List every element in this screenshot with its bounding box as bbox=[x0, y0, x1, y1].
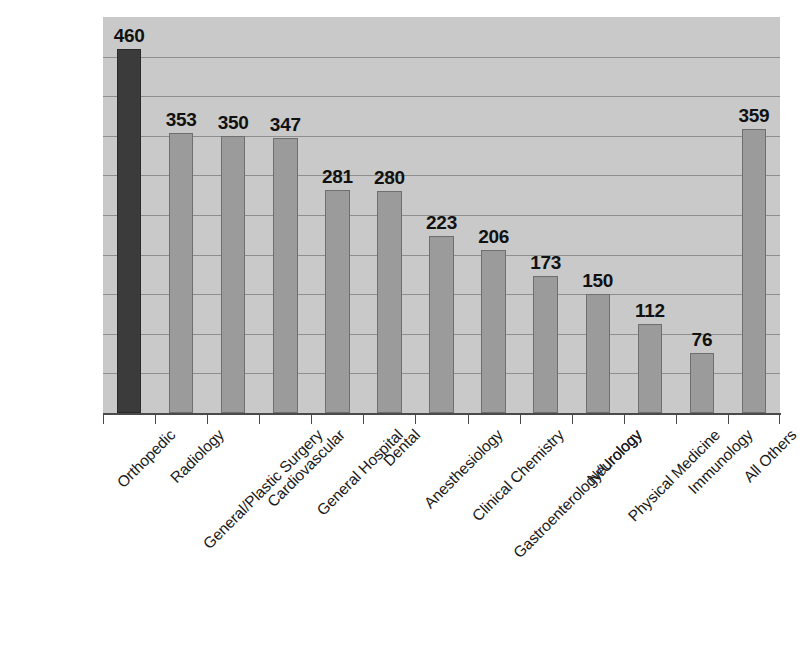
bar-slot: 112 bbox=[624, 17, 676, 413]
tick-mark bbox=[468, 415, 469, 424]
label-cell: Physical Medicine bbox=[624, 424, 676, 634]
bar-value-label: 359 bbox=[739, 105, 770, 127]
bar-slot: 280 bbox=[363, 17, 415, 413]
tick-cell bbox=[468, 415, 520, 424]
bar-slot: 359 bbox=[728, 17, 780, 413]
bar-clinical-chemistry[interactable]: 206 bbox=[481, 250, 505, 413]
bar-slot: 281 bbox=[311, 17, 363, 413]
label-cell: Gastroenterology/Urology bbox=[520, 424, 572, 634]
tick-mark bbox=[676, 415, 677, 424]
bar-value-label: 112 bbox=[635, 300, 665, 322]
bar-value-label: 173 bbox=[530, 252, 561, 274]
bar-general-hospital[interactable]: 281 bbox=[325, 190, 349, 413]
bar-slot: 347 bbox=[259, 17, 311, 413]
tick-mark bbox=[207, 415, 208, 424]
bar-slot: 206 bbox=[468, 17, 520, 413]
bar-radiology[interactable]: 353 bbox=[169, 133, 193, 413]
bar-general-plastic-surgery[interactable]: 350 bbox=[221, 136, 245, 413]
label-cell: Anesthesiology bbox=[415, 424, 467, 634]
label-cell: Cardiovascular bbox=[259, 424, 311, 634]
label-cell: All Others bbox=[728, 424, 780, 634]
tick-cell bbox=[415, 415, 467, 424]
bar-slot: 223 bbox=[415, 17, 467, 413]
label-cell: General Hospital bbox=[311, 424, 363, 634]
label-cell: Radiology bbox=[155, 424, 207, 634]
tick-mark bbox=[572, 415, 573, 424]
label-cell: Orthopedic bbox=[103, 424, 155, 634]
category-label-all-others: All Others bbox=[740, 426, 800, 486]
tick-mark bbox=[363, 415, 364, 424]
tick-mark bbox=[728, 415, 729, 424]
bar-value-label: 460 bbox=[114, 25, 145, 47]
tick-cell bbox=[363, 415, 415, 424]
bar-dental[interactable]: 280 bbox=[377, 191, 401, 413]
bar-cardiovascular[interactable]: 347 bbox=[273, 138, 297, 413]
bar-slot: 76 bbox=[676, 17, 728, 413]
tick-mark bbox=[311, 415, 312, 424]
label-cell: Dental bbox=[363, 424, 415, 634]
tick-cell bbox=[676, 415, 728, 424]
bar-value-label: 76 bbox=[692, 329, 713, 351]
bar-slot: 150 bbox=[572, 17, 624, 413]
label-cell: Immunology bbox=[676, 424, 728, 634]
bar-value-label: 206 bbox=[478, 226, 509, 248]
bar-gastroenterology-urology[interactable]: 173 bbox=[533, 276, 557, 413]
tick-cell bbox=[624, 415, 676, 424]
tick-mark bbox=[415, 415, 416, 424]
bar-value-label: 223 bbox=[426, 212, 457, 234]
tick-cell bbox=[207, 415, 259, 424]
tick-mark bbox=[624, 415, 625, 424]
bar-slot: 353 bbox=[155, 17, 207, 413]
tick-cell bbox=[155, 415, 207, 424]
tick-mark bbox=[779, 415, 780, 424]
tick-cell bbox=[728, 415, 780, 424]
bar-chart-figure: 46035335034728128022320617315011276359 O… bbox=[0, 0, 805, 656]
bars-layer: 46035335034728128022320617315011276359 bbox=[103, 17, 780, 413]
bar-value-label: 350 bbox=[218, 112, 249, 134]
tick-cell bbox=[311, 415, 363, 424]
x-axis-ticks bbox=[103, 415, 780, 424]
bar-value-label: 280 bbox=[374, 167, 405, 189]
x-axis-labels: OrthopedicRadiologyGeneral/Plastic Surge… bbox=[103, 424, 780, 634]
bar-value-label: 353 bbox=[166, 109, 197, 131]
bar-immunology[interactable]: 76 bbox=[690, 353, 714, 413]
bar-anesthesiology[interactable]: 223 bbox=[429, 236, 453, 413]
tick-cell bbox=[103, 415, 155, 424]
bar-slot: 350 bbox=[207, 17, 259, 413]
bar-value-label: 150 bbox=[582, 270, 613, 292]
label-cell: Clinical Chemistry bbox=[468, 424, 520, 634]
label-cell: General/Plastic Surgery bbox=[207, 424, 259, 634]
tick-cell bbox=[572, 415, 624, 424]
tick-mark bbox=[520, 415, 521, 424]
tick-mark bbox=[103, 415, 104, 424]
tick-cell bbox=[520, 415, 572, 424]
bar-value-label: 281 bbox=[322, 166, 353, 188]
tick-cell bbox=[259, 415, 311, 424]
label-cell: Neurology bbox=[572, 424, 624, 634]
bar-orthopedic[interactable]: 460 bbox=[117, 49, 141, 413]
bar-neurology[interactable]: 150 bbox=[586, 294, 610, 413]
bar-value-label: 347 bbox=[270, 114, 301, 136]
tick-mark bbox=[259, 415, 260, 424]
bar-all-others[interactable]: 359 bbox=[742, 129, 766, 413]
bar-slot: 173 bbox=[520, 17, 572, 413]
bar-physical-medicine[interactable]: 112 bbox=[638, 324, 662, 413]
tick-mark bbox=[155, 415, 156, 424]
bar-slot: 460 bbox=[103, 17, 155, 413]
